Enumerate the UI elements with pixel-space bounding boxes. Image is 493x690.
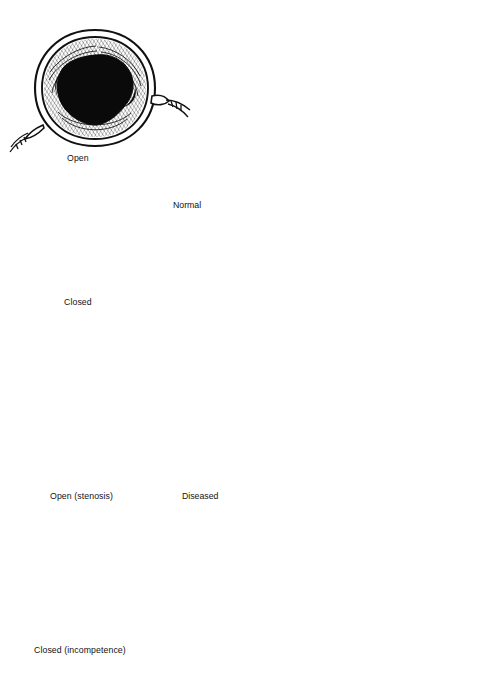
callout-label-normal: Normal bbox=[173, 199, 201, 210]
caption-open-stenosis: Open (stenosis) bbox=[50, 490, 113, 501]
illustration-svg bbox=[0, 0, 493, 690]
caption-open: Open bbox=[67, 152, 89, 163]
caption-closed-incompetence: Closed (incompetence) bbox=[34, 644, 126, 655]
illustration-canvas bbox=[0, 0, 493, 690]
callout-label-diseased: Diseased bbox=[182, 490, 218, 501]
caption-closed: Closed bbox=[64, 296, 92, 307]
